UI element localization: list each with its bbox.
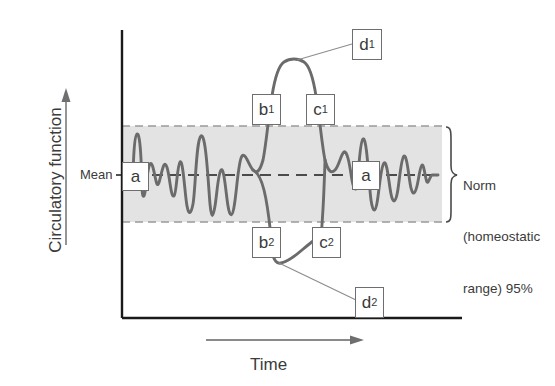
norm-band-fill (122, 126, 442, 222)
marker-label-a-right: a (361, 167, 370, 184)
norm-range-annotation: Norm (homeostatic range) 95% (463, 142, 540, 332)
marker-box-a-left[interactable]: a (122, 162, 149, 191)
marker-box-c1[interactable]: c1 (306, 94, 335, 125)
marker-label-a-left: a (131, 168, 140, 185)
marker-box-d1[interactable]: d1 (352, 29, 382, 60)
marker-sub-b2: 2 (268, 237, 274, 248)
diagram-canvas: Circulatory function Mean Time Norm (hom… (0, 0, 555, 386)
marker-box-b1[interactable]: b1 (252, 94, 281, 125)
x-axis-label: Time (250, 355, 287, 375)
d2-leader-line (279, 263, 356, 300)
marker-box-c2[interactable]: c2 (312, 227, 341, 258)
norm-annotation-line-2: (homeostatic (463, 228, 540, 245)
marker-box-a-right[interactable]: a (352, 161, 380, 190)
norm-brace-icon (446, 127, 457, 222)
x-axis-arrow-icon (206, 336, 364, 345)
marker-sub-d2: 2 (371, 297, 377, 308)
mean-line-label: Mean (80, 167, 113, 182)
marker-sub-b1: 1 (268, 104, 274, 115)
y-axis-label: Circulatory function (46, 80, 66, 280)
marker-label-d1: d (359, 36, 368, 53)
norm-annotation-line-3: range) 95% (463, 280, 540, 297)
marker-label-b2: b (259, 234, 268, 251)
marker-sub-c1: 1 (322, 104, 328, 115)
marker-box-b2[interactable]: b2 (252, 227, 281, 258)
marker-sub-c2: 2 (328, 237, 334, 248)
marker-sub-d1: 1 (369, 39, 375, 50)
norm-annotation-line-1: Norm (463, 177, 540, 194)
d1-leader-line (297, 44, 352, 60)
marker-box-d2[interactable]: d2 (355, 287, 384, 318)
marker-label-c2: c (319, 234, 328, 251)
marker-label-c1: c (313, 101, 322, 118)
marker-label-d2: d (362, 294, 371, 311)
marker-label-b1: b (259, 101, 268, 118)
